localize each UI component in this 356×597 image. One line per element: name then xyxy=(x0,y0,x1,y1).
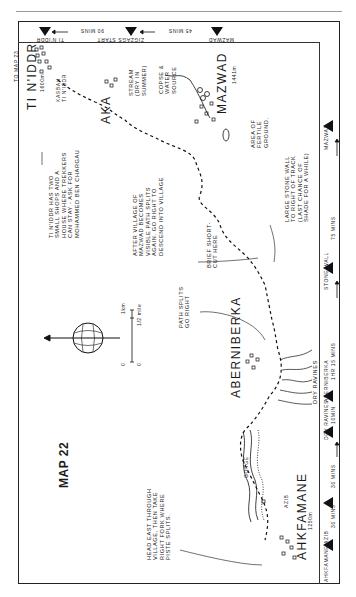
strip-waypoint-mazwad-right: MAZWAD xyxy=(324,124,330,150)
note-tinidr-info: TI N'IDDR HAS TWO SMALL SHOPS AND A HOUS… xyxy=(48,150,80,238)
top-strip-markers xyxy=(39,27,223,36)
place-kasbah: KASBAH TI N'IDDR xyxy=(56,72,68,102)
map-title: MAP 22 xyxy=(58,442,72,488)
dry-ravines xyxy=(278,350,312,404)
strip-waypoint-dry-ravines: DRY RAVINES xyxy=(324,400,330,440)
note-stone-wall: LARGE STONE WALL TO RIGHT OF TRACK (LAST… xyxy=(284,153,310,222)
place-aberniberka: ABERNIBERKA xyxy=(230,296,244,398)
strip-timing-45: 45 MINS xyxy=(168,27,192,33)
compass-globe xyxy=(44,323,120,353)
place-azib: AZIB xyxy=(284,494,290,508)
note-path-splits: PATH SPLITS GO RIGHT xyxy=(178,286,191,328)
strip-timing-90: 90 MINS xyxy=(80,27,104,33)
strip-timing-30b: 30 MINS xyxy=(331,464,337,488)
place-tinidr-alt: 1600m xyxy=(40,74,46,92)
place-gorge: GORGE xyxy=(244,456,250,478)
scale-mile: 1/2 mile xyxy=(137,304,143,326)
strip-timing-1hr15: 1HR 15 MINS xyxy=(331,343,337,380)
strip-timing-75: 75 MINS xyxy=(331,216,337,240)
scale-zero-mile: 0 xyxy=(137,363,143,366)
note-fertile-ground: AREA OF FERTILE GROUND. xyxy=(250,117,269,148)
strip-waypoint-ahkfamane-azib: AHKFAMANE AZIB xyxy=(324,531,330,582)
strip-waypoint-zigzags: ZIGZAGS START xyxy=(97,36,144,42)
strip-waypoint-tinidr: TI N'IDDR xyxy=(36,36,64,42)
place-aka: AKA xyxy=(100,95,114,124)
fertile-area-symbol xyxy=(223,129,229,141)
scale-zero-km: 0 xyxy=(121,363,127,366)
note-stream: STREAM (DRY IN SUMMER) xyxy=(128,65,147,96)
scale-bar xyxy=(130,310,134,362)
scale-km: 1km xyxy=(121,303,127,314)
strip-waypoint-aberniberka: ABERNIBERKA xyxy=(324,360,330,402)
place-mazwad: MAZWAD xyxy=(216,52,230,114)
strip-waypoint-stone-wall: STONE WALL xyxy=(324,252,330,290)
note-head-east: HEAD EAST THROUGH VILLAGE, THEN TAKE RIG… xyxy=(146,488,172,560)
strip-timing-10min: 10MIN xyxy=(331,406,337,424)
note-shortcut: BRIEF SHORT- CUT HERE xyxy=(206,222,219,268)
note-after-village: AFTER VILLAGE OF MAZWAD BECOMES VISIBLE … xyxy=(132,177,164,256)
strip-waypoint-mazwad: MAZWAD xyxy=(208,36,234,42)
place-tinidr: TI N'IDDR xyxy=(26,42,40,110)
place-mazwad-alt: 1441m xyxy=(232,66,238,84)
place-ahkfamane-alt: 1250m xyxy=(308,512,314,530)
note-dry-ravines: DRY RAVINES xyxy=(312,360,318,404)
strip-timing-30a: 30 MINS xyxy=(331,504,337,528)
link-to-map-23[interactable]: TO MAP 23 xyxy=(14,51,20,82)
note-copse: COPSE & WATER SOURCE xyxy=(158,65,177,94)
